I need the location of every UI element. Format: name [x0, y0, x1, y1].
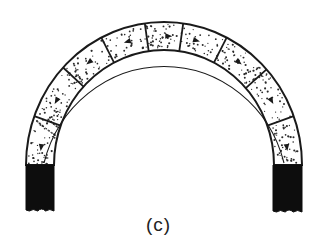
left-pier	[26, 165, 54, 211]
arch-diagram	[0, 0, 317, 250]
arrow-icon	[123, 38, 131, 45]
figure-caption: (c)	[0, 214, 317, 236]
thrust-line-arrows	[38, 33, 290, 163]
arch-rings	[26, 22, 302, 165]
arrow-icon	[267, 97, 275, 106]
arrow-icon	[235, 58, 244, 67]
arrow-icon	[284, 144, 290, 152]
arrow-icon	[165, 33, 172, 39]
arrow-icon	[52, 97, 60, 106]
voussoir-stipple	[28, 24, 299, 166]
arch-ring-outline	[26, 22, 302, 165]
right-pier	[273, 165, 302, 212]
voussoir-joint	[179, 23, 183, 51]
voussoir-joint	[101, 38, 114, 63]
arrow-icon	[38, 144, 44, 152]
voussoir-joint	[267, 116, 293, 126]
piers	[26, 165, 302, 212]
